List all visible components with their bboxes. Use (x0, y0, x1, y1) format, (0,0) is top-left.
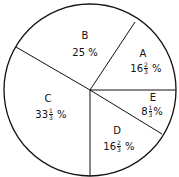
slice-e-fraction: 13 (149, 105, 153, 118)
slice-e-pct: % (153, 106, 163, 117)
slice-a-pct: % (152, 63, 162, 74)
slice-c-value: 3313 % (26, 108, 76, 121)
slice-d-pct: % (125, 141, 135, 152)
slice-b-name: B (70, 30, 100, 41)
slice-d-fraction: 23 (117, 140, 121, 153)
slice-e-value: 813% (133, 105, 171, 118)
pie-chart (0, 0, 179, 177)
slice-b-value: 25 % (62, 47, 108, 58)
slice-a-value: 1623 % (123, 62, 169, 75)
slice-d-whole: 16 (103, 141, 116, 152)
slice-a-name: A (133, 48, 153, 59)
slice-b-whole: 25 (72, 47, 85, 58)
slice-c-fraction: 13 (49, 108, 53, 121)
slice-c-pct: % (57, 109, 67, 120)
slice-a-whole: 16 (130, 63, 143, 74)
slice-e-name: E (145, 92, 161, 103)
slice-e-whole: 8 (141, 106, 147, 117)
slice-d-name: D (107, 125, 127, 136)
slice-c-whole: 33 (35, 109, 48, 120)
slice-c-name: C (38, 93, 58, 104)
slice-b-pct: % (88, 47, 98, 58)
slice-a-fraction: 23 (144, 62, 148, 75)
slice-d-value: 1623 % (96, 140, 142, 153)
